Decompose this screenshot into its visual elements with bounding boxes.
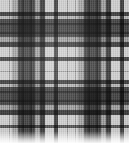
weave-texture-overlay bbox=[0, 0, 129, 143]
tartan-swatch bbox=[0, 0, 129, 143]
